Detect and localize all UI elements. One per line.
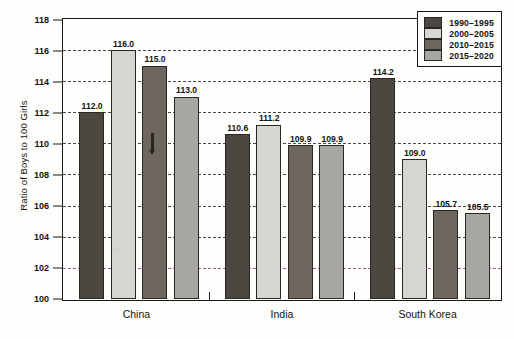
y-tick-mark-100 [53, 299, 62, 300]
bar [142, 66, 167, 299]
bar [465, 213, 490, 298]
y-tick-mark-106 [53, 206, 62, 207]
bar-value-label: 112.0 [82, 101, 103, 111]
bar-value-label: 113.0 [176, 85, 197, 95]
bar-value-label: 111.2 [259, 113, 280, 123]
x-label-china: China [123, 308, 150, 320]
bar [111, 50, 136, 299]
legend-item: 2015–2020 [424, 50, 494, 61]
bar-value-label: 109.0 [404, 148, 426, 158]
legend-swatch [424, 50, 442, 61]
bar-value-label: 115.0 [145, 54, 166, 64]
legend-label: 2015–2020 [449, 51, 494, 61]
bar-chart: Ratio of Boys to 100 Girls 1181161141121… [0, 0, 514, 339]
y-tick-label-108: 108 [3, 170, 49, 180]
y-tick-label-104: 104 [3, 232, 49, 242]
legend-label: 2010–2015 [449, 40, 494, 50]
legend-swatch [424, 28, 442, 39]
scan-artifact-mark [151, 133, 154, 152]
bar-value-label: 109.9 [290, 134, 312, 144]
y-tick-label-112: 112 [3, 108, 49, 118]
bar [225, 134, 250, 299]
bar [174, 97, 199, 299]
bar-value-label: 109.9 [321, 134, 343, 144]
group-separator [354, 292, 355, 300]
bar [288, 145, 313, 299]
group-separator [209, 292, 210, 300]
y-tick-label-102: 102 [3, 263, 49, 273]
bar [370, 78, 395, 299]
bar [402, 159, 427, 299]
bar [256, 125, 281, 299]
x-label-south-korea: South Korea [398, 308, 456, 320]
y-tick-mark-108 [53, 175, 62, 176]
bar-value-label: 114.2 [373, 67, 394, 77]
y-tick-mark-112 [53, 112, 62, 113]
bar-value-label: 110.6 [227, 123, 248, 133]
y-tick-label-106: 106 [3, 201, 49, 211]
legend-label: 1990–1995 [449, 18, 494, 28]
legend-item: 2000–2005 [424, 28, 494, 39]
legend-swatch [424, 17, 442, 28]
legend: 1990–19952000–20052010–20152015–2020 [417, 11, 502, 67]
y-tick-mark-102 [53, 268, 62, 269]
y-tick-label-118: 118 [3, 15, 49, 25]
y-tick-label-116: 116 [3, 46, 49, 56]
bar [79, 112, 104, 299]
y-tick-mark-104 [53, 237, 62, 238]
y-tick-mark-110 [53, 143, 62, 144]
y-tick-mark-118 [53, 19, 62, 20]
legend-label: 2000–2005 [449, 29, 494, 39]
bar-value-label: 105.7 [436, 199, 458, 209]
bar-value-label: 105.5 [467, 202, 489, 212]
bar-value-label: 116.0 [113, 39, 134, 49]
y-tick-label-114: 114 [3, 77, 49, 87]
y-axis-title: Ratio of Boys to 100 Girls [18, 71, 29, 241]
legend-swatch [424, 39, 442, 50]
bar [433, 210, 458, 299]
y-tick-mark-114 [53, 81, 62, 82]
bar [319, 145, 344, 299]
legend-item: 1990–1995 [424, 17, 494, 28]
y-tick-label-100: 100 [3, 294, 49, 304]
y-tick-mark-116 [53, 50, 62, 51]
y-tick-label-110: 110 [3, 139, 49, 149]
x-label-india: India [271, 308, 294, 320]
legend-item: 2010–2015 [424, 39, 494, 50]
